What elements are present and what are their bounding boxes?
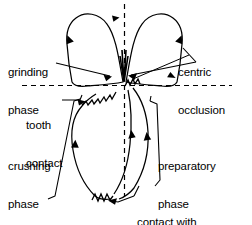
leader-grinding-phase	[56, 63, 110, 76]
label-crushing-phase: crushing phase	[8, 135, 51, 225]
arrowhead-icon	[64, 34, 74, 44]
lower-loop-inner-path	[114, 90, 131, 194]
label-preparatory-phase-line1: preparatory	[158, 160, 216, 173]
label-crushing-phase-line1: crushing	[8, 160, 51, 173]
zigzag-icon	[82, 92, 116, 105]
upper-left-lobe-path	[67, 14, 123, 86]
label-centric-occlusion-line2: occlusion	[178, 104, 225, 117]
arrowhead-icon	[128, 130, 136, 139]
label-centric-occlusion-line1: centric	[178, 66, 225, 79]
label-tooth-contact-line1: tooth	[26, 119, 62, 132]
arrowhead-icon	[143, 132, 151, 141]
arrowhead-icon	[166, 71, 176, 81]
label-crushing-phase-line2: phase	[8, 198, 51, 211]
label-grinding-phase-line1: grinding	[8, 66, 48, 79]
arrowhead-icon	[104, 75, 113, 81]
lower-loop-right-limb-path	[119, 88, 148, 199]
chewing-cycle-diagram: grinding phase centric occlusion tooth c…	[0, 0, 252, 225]
label-contact-with-food-bolus: contact with food bolus	[137, 191, 197, 225]
bracket-right-hook	[150, 96, 151, 101]
label-contact-food-line1: contact with	[137, 216, 197, 225]
label-centric-occlusion: centric occlusion	[178, 41, 225, 141]
arrowhead-icon	[112, 16, 120, 22]
zigzag-icon	[92, 194, 113, 201]
